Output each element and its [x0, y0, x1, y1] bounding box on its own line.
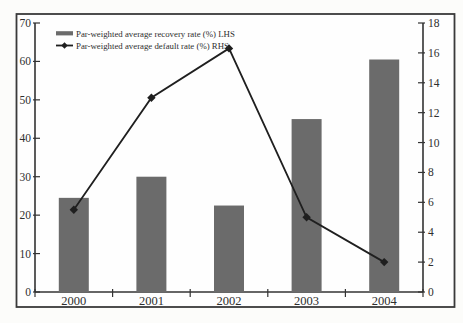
right-axis-tick-label: 2	[428, 256, 434, 268]
right-axis-tick-label: 0	[428, 286, 434, 298]
right-axis-tick-label: 8	[428, 166, 434, 178]
left-axis-tick-label: 10	[20, 248, 32, 260]
legend-bar-swatch	[56, 31, 73, 35]
right-axis-tick-label: 6	[428, 196, 434, 208]
right-axis-tick-label: 10	[428, 137, 440, 149]
year-label: 2002	[217, 294, 242, 308]
left-axis-tick-label: 0	[25, 286, 31, 298]
scanned-chart-page: 0102030405060700246810121416182000200120…	[0, 0, 463, 323]
left-axis-tick-label: 50	[20, 94, 32, 106]
year-label: 2001	[139, 294, 164, 308]
left-axis-tick-label: 20	[20, 209, 32, 221]
right-axis-tick-label: 4	[428, 226, 434, 238]
left-axis-tick-label: 60	[20, 55, 32, 67]
left-axis-tick-label: 40	[20, 132, 32, 144]
recovery-rate-bar-2002	[214, 206, 244, 292]
year-label: 2000	[61, 294, 86, 308]
right-axis-tick-label: 12	[428, 107, 440, 119]
year-label: 2003	[294, 294, 319, 308]
recovery-default-rate-chart: 0102030405060700246810121416182000200120…	[0, 0, 463, 323]
recovery-rate-bar-2001	[136, 177, 166, 292]
recovery-rate-bar-2003	[292, 119, 322, 292]
year-label: 2004	[372, 294, 398, 308]
left-axis-tick-label: 70	[20, 17, 32, 29]
legend-label-default: Par-weighted average default rate (%) RH…	[76, 41, 229, 51]
right-axis-tick-label: 14	[428, 77, 440, 89]
right-axis-tick-label: 18	[428, 17, 440, 29]
right-axis-tick-label: 16	[428, 47, 440, 59]
left-axis-tick-label: 30	[20, 171, 32, 183]
legend-label-recovery: Par-weighted average recovery rate (%) L…	[76, 29, 235, 39]
recovery-rate-bar-2004	[369, 60, 399, 292]
